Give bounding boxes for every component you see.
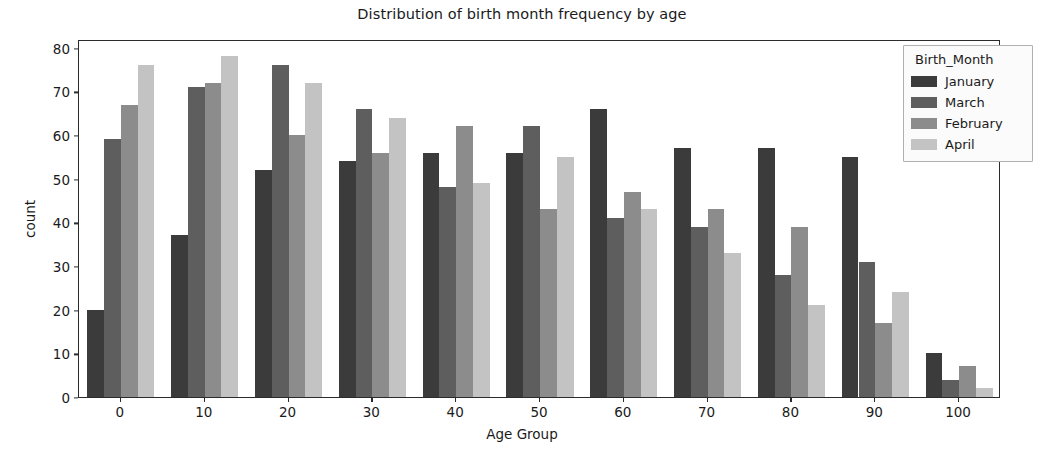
legend-entries: JanuaryMarchFebruaryApril	[911, 71, 1025, 155]
bar	[959, 366, 976, 397]
bar	[456, 126, 473, 397]
legend-title: Birth_Month	[915, 52, 1025, 67]
bar	[892, 292, 909, 397]
bar	[372, 153, 389, 397]
bar	[708, 209, 725, 397]
bar	[942, 380, 959, 397]
legend-item-label: March	[945, 95, 985, 110]
legend: Birth_Month JanuaryMarchFebruaryApril	[903, 45, 1033, 162]
legend-item-label: January	[945, 74, 994, 89]
bar	[976, 388, 993, 397]
y-tick-label: 10	[30, 346, 70, 362]
legend-swatch-icon	[911, 139, 937, 150]
legend-item[interactable]: March	[911, 92, 1025, 113]
y-tick-mark	[74, 179, 78, 180]
bar	[557, 157, 574, 397]
bar	[221, 56, 238, 397]
x-axis-label: Age Group	[0, 426, 1044, 442]
legend-item[interactable]: February	[911, 113, 1025, 134]
legend-item[interactable]: April	[911, 134, 1025, 155]
bars-layer	[79, 41, 999, 397]
legend-item-label: February	[945, 116, 1003, 131]
bar	[389, 118, 406, 397]
x-tick-mark	[874, 398, 875, 402]
x-tick-label: 40	[425, 404, 485, 420]
bar	[171, 235, 188, 397]
bar	[506, 153, 523, 397]
y-tick-mark	[74, 310, 78, 311]
legend-item-label: April	[945, 137, 975, 152]
x-tick-label: 70	[677, 404, 737, 420]
bar	[272, 65, 289, 397]
bar	[104, 139, 121, 397]
x-tick-label: 60	[593, 404, 653, 420]
bar	[674, 148, 691, 397]
bar	[775, 275, 792, 397]
x-tick-mark	[707, 398, 708, 402]
x-tick-label: 80	[760, 404, 820, 420]
bar	[423, 153, 440, 397]
y-tick-label: 70	[30, 84, 70, 100]
x-tick-mark	[120, 398, 121, 402]
y-tick-label: 0	[30, 390, 70, 406]
bar	[791, 227, 808, 397]
x-tick-mark	[539, 398, 540, 402]
bar	[289, 135, 306, 397]
bar	[205, 83, 222, 397]
bar	[540, 209, 557, 397]
bar	[808, 305, 825, 397]
bar	[138, 65, 155, 397]
bar	[842, 157, 859, 397]
bar	[875, 323, 892, 397]
bar	[356, 109, 373, 397]
x-tick-mark	[455, 398, 456, 402]
legend-swatch-icon	[911, 118, 937, 129]
bar	[641, 209, 658, 397]
y-tick-mark	[74, 223, 78, 224]
y-tick-label: 30	[30, 259, 70, 275]
x-tick-label: 90	[844, 404, 904, 420]
x-tick-label: 50	[509, 404, 569, 420]
plot-area	[78, 40, 1000, 398]
bar	[523, 126, 540, 397]
y-tick-mark	[74, 266, 78, 267]
y-tick-mark	[74, 397, 78, 398]
x-tick-mark	[288, 398, 289, 402]
y-tick-label: 80	[30, 41, 70, 57]
bar	[859, 262, 876, 397]
bar	[305, 83, 322, 397]
bar	[691, 227, 708, 397]
x-tick-label: 10	[174, 404, 234, 420]
y-tick-label: 20	[30, 303, 70, 319]
bar	[121, 105, 138, 398]
bar	[188, 87, 205, 397]
bar	[339, 161, 356, 397]
x-tick-mark	[371, 398, 372, 402]
x-tick-label: 30	[341, 404, 401, 420]
y-tick-label: 60	[30, 128, 70, 144]
bar	[926, 353, 943, 397]
legend-item[interactable]: January	[911, 71, 1025, 92]
legend-swatch-icon	[911, 76, 937, 87]
x-tick-mark	[790, 398, 791, 402]
bar	[607, 218, 624, 397]
y-tick-mark	[74, 135, 78, 136]
bar	[724, 253, 741, 397]
y-tick-label: 50	[30, 172, 70, 188]
x-tick-mark	[623, 398, 624, 402]
x-tick-mark	[204, 398, 205, 402]
bar	[87, 310, 104, 397]
bar	[624, 192, 641, 397]
y-tick-mark	[74, 48, 78, 49]
x-tick-label: 100	[928, 404, 988, 420]
x-tick-mark	[958, 398, 959, 402]
y-tick-mark	[74, 92, 78, 93]
chart-title: Distribution of birth month frequency by…	[0, 6, 1044, 22]
y-tick-mark	[74, 354, 78, 355]
bar	[590, 109, 607, 397]
legend-swatch-icon	[911, 97, 937, 108]
x-tick-label: 0	[90, 404, 150, 420]
bar	[758, 148, 775, 397]
bar	[473, 183, 490, 397]
x-tick-label: 20	[258, 404, 318, 420]
